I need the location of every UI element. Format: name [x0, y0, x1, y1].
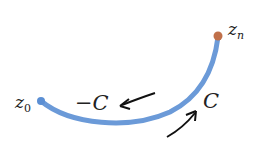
arrow-reverse-icon: [122, 93, 155, 105]
arrow-forward-icon: [167, 113, 195, 137]
label-c: C: [203, 89, 219, 113]
end-point-zn: [214, 32, 223, 41]
label-z0: z0: [14, 92, 31, 115]
label-zn: zn: [227, 19, 244, 42]
start-point-z0: [37, 97, 45, 105]
contour-curve: [41, 37, 218, 123]
arrow-forward-head-icon: [186, 111, 196, 121]
contour-diagram: z0 zn −C C: [0, 0, 264, 149]
label-minus-c: −C: [75, 91, 109, 115]
